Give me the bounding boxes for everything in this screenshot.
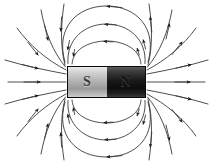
field-loop-top-inner — [72, 41, 141, 64]
south-pole-label: S — [83, 75, 91, 89]
field-loop-bottom-inner — [72, 100, 141, 123]
field-loop-bottom-mid — [68, 101, 146, 141]
south-pole: S — [68, 67, 107, 97]
bar-magnet: S N — [67, 66, 146, 98]
field-lines-north-outward — [147, 4, 208, 160]
field-lines-south-inward — [5, 4, 66, 160]
north-pole: N — [107, 67, 146, 97]
magnet-field-diagram: S N — [0, 0, 212, 163]
north-pole-label: N — [120, 75, 131, 89]
field-loop-top-mid — [68, 24, 146, 64]
